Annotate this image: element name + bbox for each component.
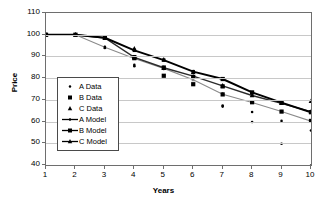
legend-item-a-data[interactable]: A Data [61,81,115,92]
y-tick-label: 100 [0,29,40,38]
y-tick-label: 60 [0,116,40,125]
y-tick-label: 70 [0,94,40,103]
legend-item-b-data[interactable]: B Data [61,92,115,103]
legend-item-b-model[interactable]: B Model [61,125,115,136]
data-point-a [221,105,224,108]
x-tick-label: 6 [182,170,202,179]
data-point-c [132,46,137,50]
x-tick-mark [104,166,105,169]
x-tick-label: 10 [300,170,320,179]
triangle-marker [61,136,79,147]
x-tick-mark [163,166,164,169]
data-point-b [191,82,195,86]
data-point-a [104,47,107,50]
square-marker [61,125,79,136]
legend-item-c-model[interactable]: C Model [61,136,115,147]
data-point-a [251,111,254,114]
x-tick-mark [251,166,252,169]
square-marker [61,92,79,103]
data-point-a [310,129,311,132]
x-tick-mark [133,166,134,169]
legend-label: C Data [79,103,102,114]
y-tick-label: 90 [0,50,40,59]
x-tick-label: 7 [212,170,232,179]
legend-label: A Data [79,81,102,92]
data-point-a [310,164,311,165]
x-tick-label: 3 [94,170,114,179]
x-tick-label: 1 [35,170,55,179]
legend-label: B Model [79,125,107,136]
dot-marker [61,81,79,92]
x-tick-label: 9 [271,170,291,179]
y-tick-label: 40 [0,159,40,168]
gridline [46,56,311,57]
x-tick-label: 8 [241,170,261,179]
legend-label: C Model [79,136,107,147]
x-tick-label: 2 [64,170,84,179]
legend-item-a-model[interactable]: A Model [61,114,115,125]
x-tick-mark [74,166,75,169]
y-tick-label: 110 [0,7,40,16]
triangle-marker [61,103,79,114]
legend-label: A Model [79,114,106,125]
legend: A DataB DataC DataA ModelB ModelC Model [57,77,119,151]
y-tick-label: 80 [0,72,40,81]
x-tick-mark [222,166,223,169]
legend-item-c-data[interactable]: C Data [61,103,115,114]
data-point-b [221,92,225,96]
x-tick-label: 5 [153,170,173,179]
x-tick-mark [310,166,311,169]
x-tick-mark [281,166,282,169]
legend-label: B Data [79,92,102,103]
x-axis-title: Years [0,186,327,195]
data-point-b [279,109,283,113]
y-axis-title: Price [10,53,19,113]
x-tick-mark [45,166,46,169]
gridline [46,35,311,36]
price-vs-years-chart: Price Years 110100908070605040 123456789… [0,0,327,201]
data-point-a [133,65,136,68]
x-tick-label: 4 [123,170,143,179]
y-tick-label: 50 [0,137,40,146]
x-tick-mark [192,166,193,169]
dot-marker [61,114,79,125]
